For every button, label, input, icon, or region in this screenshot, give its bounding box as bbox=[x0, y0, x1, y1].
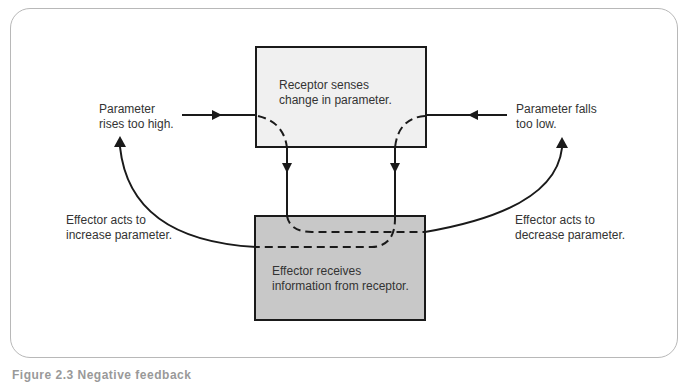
increase-label-line1: Effector acts to bbox=[66, 213, 172, 228]
decrease-label: Effector acts to decrease parameter. bbox=[515, 213, 625, 243]
figure-caption: Figure 2.3 Negative feedback bbox=[12, 368, 191, 382]
effector-label: Effector receives information from recep… bbox=[272, 264, 409, 294]
decrease-label-line1: Effector acts to bbox=[515, 213, 625, 228]
receptor-label-line1: Receptor senses bbox=[279, 78, 392, 93]
receptor-label: Receptor senses change in parameter. bbox=[279, 78, 392, 108]
rises-label: Parameter rises too high. bbox=[99, 102, 174, 132]
rises-label-line1: Parameter bbox=[99, 102, 174, 117]
effector-label-line2: information from receptor. bbox=[272, 279, 409, 294]
rises-label-line2: rises too high. bbox=[99, 117, 174, 132]
effector-label-line1: Effector receives bbox=[272, 264, 409, 279]
falls-label-line2: too low. bbox=[516, 117, 597, 132]
increase-label: Effector acts to increase parameter. bbox=[66, 213, 172, 243]
increase-label-line2: increase parameter. bbox=[66, 228, 172, 243]
falls-label-line1: Parameter falls bbox=[516, 102, 597, 117]
decrease-label-line2: decrease parameter. bbox=[515, 228, 625, 243]
receptor-label-line2: change in parameter. bbox=[279, 93, 392, 108]
falls-label: Parameter falls too low. bbox=[516, 102, 597, 132]
